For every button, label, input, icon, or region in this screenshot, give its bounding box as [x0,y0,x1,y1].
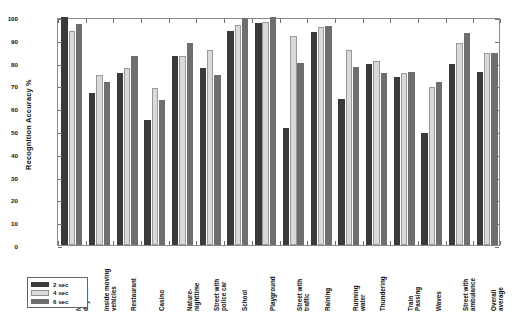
x-axis-tick-mark [390,241,391,245]
x-axis-tick-mark-top [446,19,447,23]
bar [318,27,324,245]
bar [124,68,130,245]
y-axis-tick-label: 20 [0,197,18,204]
y-axis-tick-mark [58,179,62,180]
bar [401,73,407,245]
bar [456,43,462,245]
bar [117,73,123,245]
bar-group [113,19,141,245]
y-axis-tick-mark-right [495,87,499,88]
x-axis-tick-mark-top [500,19,501,23]
bar [381,73,387,245]
legend-swatch-icon [31,299,49,304]
bar [353,67,359,245]
y-axis-tick-mark [58,224,62,225]
y-axis-tick-mark-right [495,19,499,20]
bar [408,72,414,245]
bar [421,133,427,245]
y-axis-tick-mark-right [495,42,499,43]
bar [255,23,261,245]
x-axis-tick-mark-top [58,19,59,23]
bar [325,26,331,245]
y-axis-tick-label: 10 [0,220,18,227]
x-axis-tick-mark-top [307,19,308,23]
y-axis-tick-mark-right [495,133,499,134]
bar-group [141,19,169,245]
bar [104,82,110,245]
x-axis-tick-mark [113,241,114,245]
bar-group [196,19,224,245]
y-axis-tick-label: 80 [0,60,18,67]
x-axis-tick-mark [58,241,59,245]
bar-group [446,19,474,245]
x-axis-tick-mark [446,241,447,245]
x-axis-tick-mark [500,241,501,245]
bar-group [224,19,252,245]
bar [207,50,213,245]
x-axis-category-label: School [242,249,249,311]
x-axis-category-label: Overall average [491,249,505,311]
bar [131,56,137,245]
x-axis-tick-mark-top [169,19,170,23]
legend-item: 2 sec [31,280,84,289]
x-axis-tick-mark-top [363,19,364,23]
y-axis-tick-label: 70 [0,83,18,90]
x-axis-category-label: Restaurant [131,249,138,311]
x-axis-tick-mark-top [418,19,419,23]
bar [449,64,455,245]
bar [61,17,67,245]
bar-group [335,19,363,245]
legend-label: 6 sec [53,298,68,305]
y-axis-tick-label: 30 [0,174,18,181]
x-axis-category-label: Playground [270,249,277,311]
bar [242,18,248,245]
bar [69,31,75,245]
x-axis-tick-mark [473,241,474,245]
bar [429,87,435,245]
x-axis-tick-mark-top [224,19,225,23]
y-axis-tick-label: 40 [0,151,18,158]
bar-group [252,19,280,245]
bar [144,120,150,245]
x-axis-category-label: Raining [325,249,332,311]
bar [297,63,303,245]
y-axis-tick-mark [58,201,62,202]
bar [227,31,233,245]
bar [436,82,442,245]
bar [311,32,317,245]
y-axis-tick-mark-right [495,224,499,225]
x-axis-category-label: Street with ambulance [463,249,477,311]
x-axis-tick-mark [307,241,308,245]
bar-group [418,19,446,245]
x-axis-tick-mark-top [280,19,281,23]
x-axis-category-label: Running water [353,249,367,311]
bar [200,68,206,245]
legend-item: 4 sec [31,289,84,298]
y-axis-tick-mark-right [495,179,499,180]
x-axis-tick-mark [196,241,197,245]
bar [179,56,185,245]
bar [270,17,276,245]
y-axis-tick-mark [58,133,62,134]
bar-group [363,19,391,245]
bar [366,64,372,245]
x-axis-tick-mark [141,241,142,245]
bar-group [169,19,197,245]
y-axis-tick-mark [58,247,62,248]
x-axis-tick-mark [363,241,364,245]
bar-group [86,19,114,245]
legend-label: 4 sec [53,289,68,296]
x-axis-tick-mark-top [113,19,114,23]
legend-swatch-icon [31,290,49,295]
y-axis-tick-mark-right [495,65,499,66]
bar [290,36,296,245]
y-axis-tick-label: 90 [0,37,18,44]
bar-group [307,19,335,245]
y-axis-tick-mark [58,65,62,66]
y-axis-tick-mark [58,87,62,88]
bar-group [473,19,501,245]
bar [159,100,165,245]
x-axis-category-label: Thundering [380,249,387,311]
y-axis-tick-mark-right [495,110,499,111]
y-axis-tick-label: 60 [0,106,18,113]
